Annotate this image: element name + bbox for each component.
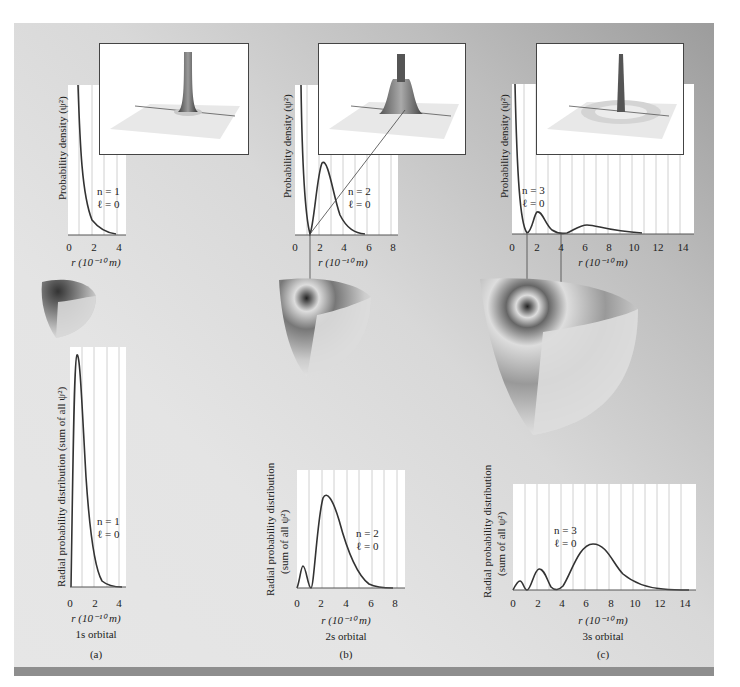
surface-peak-2s bbox=[319, 44, 467, 156]
panel-label-c: (c) bbox=[597, 648, 609, 660]
surface-plot-1s bbox=[99, 43, 249, 155]
radial-chart-3s bbox=[513, 484, 696, 590]
density-ylabel-2s: Probability density (ψ²) bbox=[281, 94, 293, 198]
surface-plot-2s bbox=[318, 43, 466, 155]
orbital-sphere-2s bbox=[277, 277, 373, 377]
radial-ylabel-1s: Radial probability distribution (sum of … bbox=[55, 387, 67, 587]
radial-ylabel-3s-line1: Radial probability distribution bbox=[481, 465, 493, 598]
density-xlabel-1s: r (10⁻¹⁰ m) bbox=[71, 256, 120, 269]
radial-ylabel-3s-line2: (sum of all ψ²) bbox=[495, 512, 507, 576]
quantum-numbers-1s-radial: n = 1ℓ = 0 bbox=[97, 515, 120, 541]
quantum-numbers-3s-radial: n = 3ℓ = 0 bbox=[554, 524, 577, 550]
radial-curve-2s bbox=[297, 470, 405, 588]
orbital-sphere-1s bbox=[36, 278, 98, 338]
quantum-numbers-2s-density: n = 2ℓ = 0 bbox=[348, 185, 371, 211]
surface-peak-1s bbox=[100, 44, 250, 156]
radial-xlabel-2s: r (10⁻¹⁰ m) bbox=[321, 614, 370, 627]
orbital-sphere-3s bbox=[478, 277, 640, 437]
density-xlabel-2s: r (10⁻¹⁰ m) bbox=[318, 256, 367, 269]
quantum-numbers-2s-radial: n = 2ℓ = 0 bbox=[356, 527, 379, 553]
radial-curve-1s bbox=[70, 347, 126, 587]
quantum-numbers-1s-density: n = 1ℓ = 0 bbox=[97, 185, 120, 211]
panel-label-a: (a) bbox=[90, 648, 102, 660]
bottom-rule bbox=[14, 667, 714, 676]
orbital-caption-2s: 2s orbital bbox=[325, 630, 366, 642]
density-xlabel-3s: r (10⁻¹⁰ m) bbox=[578, 256, 627, 269]
radial-ylabel-2s-line1: Radial probability distribution bbox=[264, 463, 276, 596]
quantum-numbers-3s-density: n = 3ℓ = 0 bbox=[522, 184, 545, 210]
surface-peak-3s bbox=[537, 44, 685, 156]
radial-curve-3s bbox=[513, 484, 696, 590]
density-ylabel-1s: Probability density (ψ²) bbox=[56, 96, 68, 200]
radial-xlabel-3s: r (10⁻¹⁰ m) bbox=[578, 614, 627, 627]
surface-plot-3s bbox=[536, 43, 684, 155]
orbital-caption-3s: 3s orbital bbox=[582, 630, 623, 642]
density-ylabel-3s: Probability density (ψ²) bbox=[498, 94, 510, 198]
radial-xlabel-1s: r (10⁻¹⁰ m) bbox=[71, 612, 120, 625]
radial-chart-2s bbox=[297, 470, 405, 588]
orbital-caption-1s: 1s orbital bbox=[75, 628, 116, 640]
panel-label-b: (b) bbox=[340, 648, 353, 660]
radial-chart-1s bbox=[70, 347, 126, 587]
radial-ylabel-2s-line2: (sum of all ψ²) bbox=[278, 510, 290, 574]
